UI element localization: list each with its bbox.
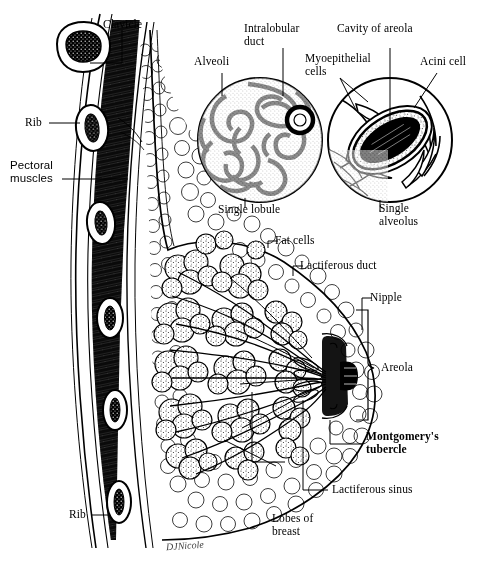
label-rib-top: Rib (25, 116, 42, 129)
label-montgomerys-tubercle: Montgomery's tubercle (366, 430, 439, 455)
label-lactiferous-duct: Lactiferous duct (300, 259, 377, 272)
label-acini-cell: Acini cell (420, 55, 466, 68)
nipple-and-areola (322, 334, 358, 419)
label-intralobular-duct: Intralobular duct (244, 22, 299, 47)
figure-canvas: Clavicle Rib Pectoral muscles Alveoli In… (0, 0, 479, 565)
label-rib-bottom: Rib (69, 508, 86, 521)
label-areola: Areola (381, 361, 413, 374)
glandular-lobes-mass (152, 231, 311, 480)
breast-anatomy-illustration (0, 0, 479, 565)
label-single-alveolus: Single alveolus (379, 202, 418, 227)
label-clavicle: Clavicle (103, 18, 142, 31)
label-alveoli: Alveoli (194, 55, 229, 68)
label-cavity-of-areola: Cavity of areola (337, 22, 413, 35)
label-single-lobule: Single lobule (218, 203, 280, 216)
label-nipple: Nipple (370, 291, 402, 304)
label-lactiferous-sinus: Lactiferous sinus (332, 483, 413, 496)
label-pectoral-muscles: Pectoral muscles (10, 159, 53, 184)
chest-wall-section (71, 14, 154, 548)
label-myoepithelial-cells: Myoepithelial cells (305, 52, 371, 77)
label-fat-cells: Fat cells (275, 234, 315, 247)
label-lobes-of-breast: Lobes of breast (272, 512, 313, 537)
single-lobule-inset-circle (198, 78, 322, 202)
